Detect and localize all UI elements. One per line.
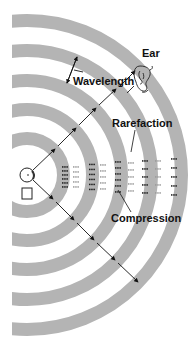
wave-ring-2 [0, 110, 93, 241]
rarefaction-pointer [131, 130, 135, 152]
source-base-icon [22, 188, 32, 199]
wavelength-label: Wavelength [73, 75, 135, 87]
sound-wave-diagram: Ear Wavelength Rarefaction Compression [0, 0, 193, 345]
rarefaction-label: Rarefaction [112, 117, 173, 129]
ear-label: Ear [142, 47, 160, 59]
sound-source [20, 168, 34, 199]
compression-label: Compression [111, 212, 182, 224]
